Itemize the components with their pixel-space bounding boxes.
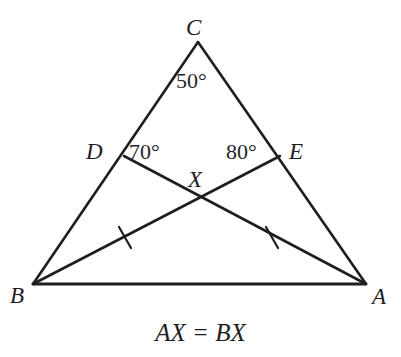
point-label-x: X <box>188 168 202 191</box>
geometry-figure: C B A D E X 50° 70° 80° AX = BX <box>0 0 401 357</box>
vertex-label-c: C <box>186 16 201 39</box>
figure-caption: AX = BX <box>0 318 401 348</box>
vertex-label-b: B <box>10 284 24 307</box>
vertex-label-a: A <box>372 285 386 308</box>
angle-label-at-d: 70° <box>129 141 160 163</box>
angle-label-at-e: 80° <box>226 141 257 163</box>
point-label-d: D <box>86 140 103 163</box>
point-label-e: E <box>289 140 303 163</box>
segment-side-bc <box>33 42 198 284</box>
angle-label-at-c: 50° <box>176 70 207 92</box>
segment-side-ca <box>198 42 366 284</box>
